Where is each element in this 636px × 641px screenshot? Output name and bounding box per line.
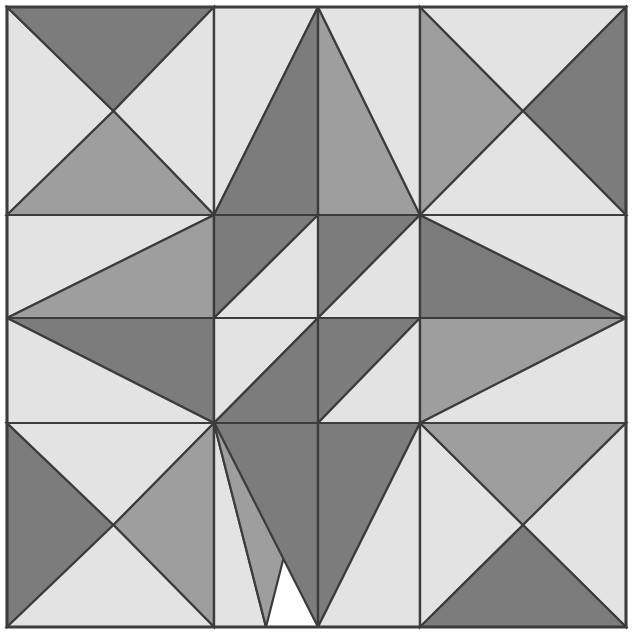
quilt-pattern-svg [0,0,636,641]
artwork-canvas [0,0,636,641]
